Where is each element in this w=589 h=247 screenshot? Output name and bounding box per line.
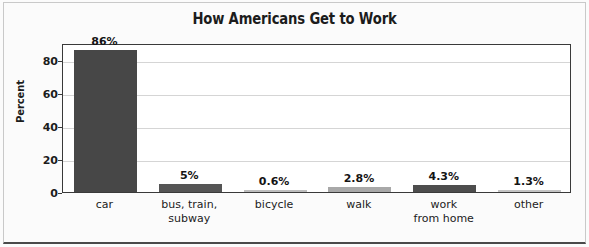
- bar: [413, 185, 476, 192]
- gridline: [63, 95, 570, 96]
- bar: [328, 187, 391, 192]
- y-axis-tick-label: 0: [0, 187, 58, 200]
- bar-value-label: 2.8%: [314, 172, 404, 185]
- y-axis-tick-mark: [58, 193, 62, 194]
- bar-value-label: 1.3%: [484, 175, 574, 188]
- bar: [74, 50, 137, 192]
- bar-value-label: 5%: [144, 169, 234, 182]
- bar-value-label: 4.3%: [399, 170, 489, 183]
- gridline: [63, 62, 570, 63]
- gridline: [63, 161, 570, 162]
- category-label-line: subway: [139, 212, 239, 226]
- bar: [159, 184, 222, 192]
- category-label-line: other: [479, 198, 579, 212]
- bar-value-label: 0.6%: [229, 175, 319, 188]
- y-axis-tick-label: 20: [0, 153, 58, 166]
- y-axis-tick-label: 80: [0, 54, 58, 67]
- plot-area: [62, 44, 571, 193]
- y-axis-tick-label: 60: [0, 87, 58, 100]
- chart-title: How Americans Get to Work: [35, 10, 553, 28]
- chart-figure: How Americans Get to Work Percent 020406…: [0, 0, 589, 247]
- bar: [498, 190, 561, 192]
- bar-value-label: 86%: [59, 35, 149, 48]
- x-axis-category-label: other: [479, 198, 579, 212]
- y-axis-tick-label: 40: [0, 120, 58, 133]
- category-label-line: from home: [394, 212, 494, 226]
- gridline: [63, 128, 570, 129]
- bar: [244, 190, 307, 192]
